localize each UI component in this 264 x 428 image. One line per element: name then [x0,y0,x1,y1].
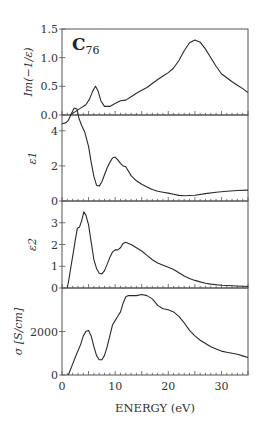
x-tick-label: 30 [214,380,228,393]
y-tick-label: 0.0 [41,109,59,122]
c76-optical-spectra-figure: 0.00.51.01.5Im(−1/ε)024ε10123ε202000σ [S… [0,0,264,428]
y-tick-label: 2000 [30,326,58,339]
y-tick-label: 2 [51,160,58,173]
y-axis-title: ε1 [26,152,39,165]
y-tick-label: 1.0 [41,52,59,65]
x-tick-label: 20 [161,380,175,393]
y-tick-label: 0 [51,369,58,382]
y-axis-title: ε2 [26,238,39,251]
y-tick-label: 3 [51,217,58,230]
y-tick-label: 4 [51,125,58,138]
y-axis-title: Im(−1/ε) [22,47,35,97]
y-axis-title: σ [S/cm] [12,307,25,355]
x-tick-label: 0 [59,380,66,393]
y-tick-label: 2 [51,239,58,252]
plot-frame [62,115,248,201]
y-tick-label: 0 [51,195,58,208]
panel-im-inverse-epsilon: 0.00.51.01.5Im(−1/ε) [22,23,248,122]
panel-conductivity: 02000σ [S/cm] [12,288,248,382]
x-tick-label: 10 [108,380,122,393]
data-curve [68,295,248,376]
y-tick-label: 1 [51,260,58,273]
y-tick-label: 1.5 [41,23,59,36]
plot-frame [62,201,248,288]
data-curve [62,108,248,196]
panel-epsilon2: 0123ε2 [26,201,248,295]
data-curve [67,212,248,288]
y-tick-label: 0 [51,282,58,295]
y-tick-label: 0.5 [41,80,59,93]
figure-title: C76 [72,34,100,57]
panel-epsilon1: 024ε1 [26,108,248,208]
x-axis-title: ENERGY (eV) [115,401,195,415]
plot-frame [62,288,248,375]
